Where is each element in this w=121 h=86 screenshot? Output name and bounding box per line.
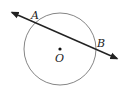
secant-line: [12, 13, 117, 59]
center-point: [58, 47, 61, 50]
center-label-o: O: [55, 52, 64, 65]
geometry-diagram: A B O: [0, 0, 121, 86]
point-label-a: A: [30, 9, 39, 22]
point-label-b: B: [96, 37, 105, 50]
